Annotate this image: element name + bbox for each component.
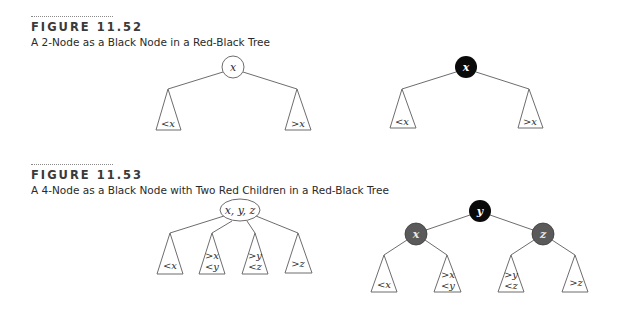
subtree-label: <y <box>205 261 219 272</box>
tree-edge <box>212 221 232 233</box>
tree-edge <box>476 72 529 89</box>
tree-edge <box>425 240 447 255</box>
tree-edge <box>552 240 575 255</box>
subtree-label: >x <box>523 116 537 127</box>
tree-edge <box>247 221 255 233</box>
diagram-canvas: x <x >x x <x >x x, y, z <x >x <y >y <z >… <box>0 0 617 316</box>
red-black-4-node-diagram: y x z <x >x <y >y <z >z <box>371 200 588 292</box>
subtree-label: <y <box>441 280 455 291</box>
two-node-diagram: x <x >x <box>156 56 311 130</box>
four-node-diagram: x, y, z <x >x <y >y <z >z <box>157 199 312 274</box>
node-label: x, y, z <box>225 204 256 217</box>
node-label: x <box>462 61 470 74</box>
red-black-2-node-diagram: x <x >x <box>390 56 543 128</box>
subtree-label: >z <box>569 277 583 288</box>
subtree-label: >x <box>291 118 305 129</box>
tree-edge <box>426 215 470 230</box>
tree-edge <box>490 215 533 230</box>
node-label: x <box>412 228 420 241</box>
subtree-label: <x <box>161 118 175 129</box>
tree-edge <box>243 72 297 89</box>
subtree-label: >z <box>291 258 305 269</box>
subtree-label: <x <box>395 116 409 127</box>
subtree-label: >x <box>441 269 455 280</box>
tree-edge <box>511 240 534 255</box>
subtree-label: >y <box>248 250 262 261</box>
tree-edge <box>256 216 298 233</box>
subtree-label: <x <box>377 279 391 290</box>
subtree-label: >x <box>205 250 219 261</box>
tree-edge <box>402 72 456 89</box>
tree-edge <box>384 240 407 255</box>
subtree-label: <z <box>504 280 518 291</box>
subtree-label: <x <box>163 260 177 271</box>
node-label: z <box>539 228 547 241</box>
node-label: x <box>230 61 237 74</box>
subtree-label: >y <box>504 269 518 280</box>
tree-edge <box>168 72 223 89</box>
subtree-label: <z <box>248 261 262 272</box>
